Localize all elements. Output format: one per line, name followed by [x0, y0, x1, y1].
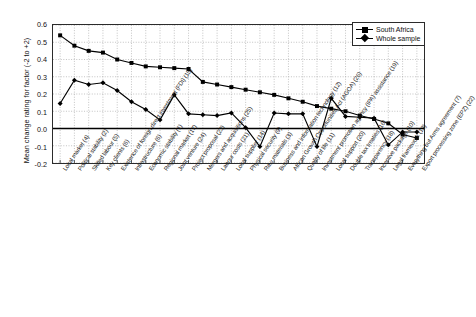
legend-label: South Africa	[376, 25, 414, 34]
legend-item: South Africa	[356, 25, 420, 34]
square-marker-icon	[356, 26, 373, 33]
legend-label: Whole sample	[376, 34, 420, 43]
diamond-marker-icon	[356, 35, 373, 42]
legend-item: Whole sample	[356, 34, 420, 43]
chart-legend: South AfricaWhole sample	[352, 22, 425, 46]
